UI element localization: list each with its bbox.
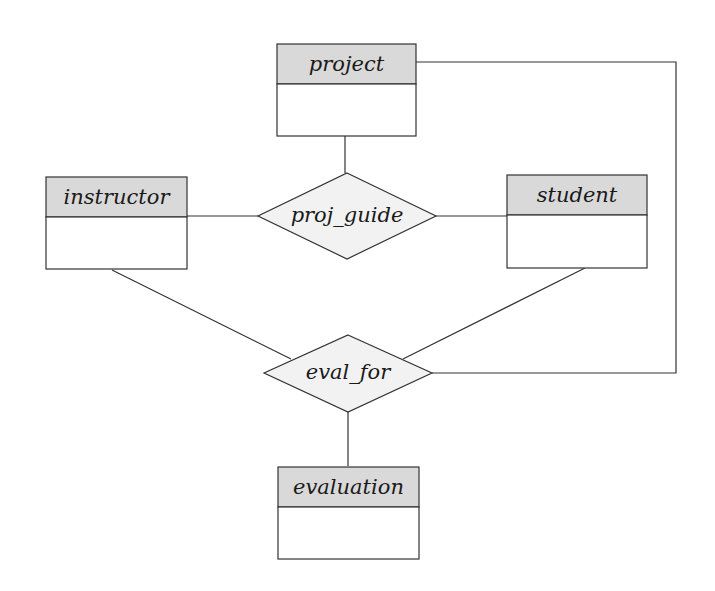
entity-label: evaluation [293,475,404,499]
relationship-label: eval_for [306,360,392,384]
entity-label: project [309,52,385,76]
entity-attributes [507,215,647,268]
relationship-label: proj_guide [291,203,404,227]
entity-attributes [46,217,187,269]
relationship-proj_guide[interactable]: proj_guide [258,173,436,259]
entity-attributes [278,507,419,559]
entity-evaluation[interactable]: evaluation [278,467,419,559]
edge-instructor-eval_for [112,270,291,359]
entity-attributes [277,84,416,136]
edge-student-eval_for [403,268,585,359]
entity-label: instructor [64,185,172,209]
relationship-eval_for[interactable]: eval_for [264,335,432,412]
entity-student[interactable]: student [507,175,647,268]
entity-label: student [537,183,618,207]
entity-instructor[interactable]: instructor [46,177,187,269]
entity-project[interactable]: project [277,44,416,136]
